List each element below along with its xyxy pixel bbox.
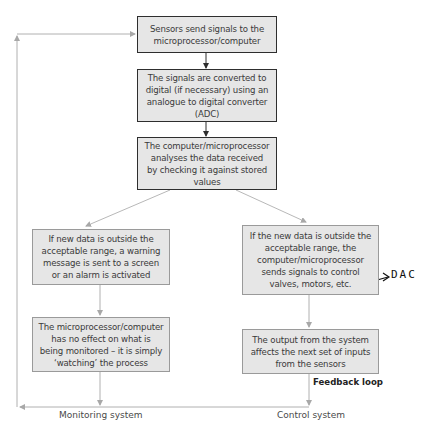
control-system-label: Control system — [277, 410, 345, 420]
dac-annotation: DAC — [391, 268, 417, 281]
feedback-loop-label: Feedback loop — [313, 377, 383, 387]
monitoring-warning-box: If new data is outside the acceptable ra… — [32, 229, 170, 285]
step-sensors-text: Sensors send signals to the microprocess… — [150, 23, 264, 47]
step-analyse-box: The computer/microprocessor analyses the… — [137, 137, 277, 190]
control-send-signals-text: If the new data is outside the acceptabl… — [250, 230, 371, 290]
monitoring-no-effect-box: The microprocessor/computer has no effec… — [32, 317, 170, 372]
step-convert-box: The signals are converted to digital (if… — [137, 69, 277, 122]
step-sensors-box: Sensors send signals to the microprocess… — [137, 16, 277, 53]
step-convert-text: The signals are converted to digital (if… — [146, 72, 269, 120]
arrow-to-control — [236, 190, 306, 222]
monitoring-warning-text: If new data is outside the acceptable ra… — [42, 233, 161, 281]
control-output-text: The output from the system affects the n… — [251, 334, 370, 370]
arrow-to-monitoring — [86, 190, 170, 226]
step-analyse-text: The computer/microprocessor analyses the… — [145, 140, 270, 188]
control-send-signals-box: If the new data is outside the acceptabl… — [242, 225, 379, 295]
control-output-box: The output from the system affects the n… — [242, 329, 379, 374]
monitoring-no-effect-text: The microprocessor/computer has no effec… — [39, 321, 164, 369]
monitoring-system-label: Monitoring system — [59, 410, 143, 420]
